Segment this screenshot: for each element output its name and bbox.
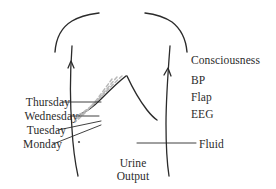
- liver-edge-dashed-icon: [75, 76, 122, 122]
- label-monday: Monday: [0, 138, 62, 151]
- label-urine-output: Urine Output: [100, 157, 166, 182]
- torso-outline-icon: [55, 13, 187, 52]
- label-bp: BP: [191, 74, 205, 87]
- label-flap: Flap: [191, 91, 212, 104]
- label-consciousness: Consciousness: [191, 54, 260, 67]
- label-wednesday: Wednesday: [0, 110, 78, 123]
- right-costal-margin: [127, 76, 157, 120]
- right-flank-line: [166, 46, 170, 176]
- label-urine-output-line2: Output: [100, 170, 166, 183]
- dot-marker-icon: [78, 141, 80, 143]
- figure-root: Thursday Wednesday Tuesday Monday Consci…: [0, 0, 276, 189]
- label-eeg: EEG: [191, 108, 214, 121]
- label-urine-output-line1: Urine: [100, 157, 166, 170]
- label-fluid: Fluid: [199, 138, 224, 151]
- label-thursday: Thursday: [0, 96, 70, 109]
- label-tuesday: Tuesday: [0, 124, 66, 137]
